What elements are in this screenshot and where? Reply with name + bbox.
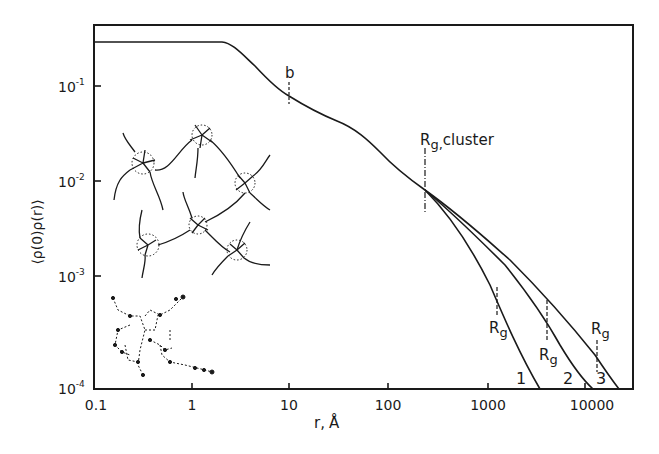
plot-frame [94,25,633,389]
x-tick-labels: 0.1 1 10 100 1000 10000 [85,397,614,413]
x-tick-label: 10000 [570,397,615,413]
rg-label-2: Rg [539,346,558,367]
y-tick-label: 10-1 [58,77,85,95]
x-tick-label: 1000 [470,397,506,413]
curves [94,42,619,389]
curve-label-2: 2 [563,369,573,388]
correlation-function-chart: 10-1 10-2 10-3 10-4 ⟨ρ(0)ρ(r)⟩ 0.1 1 10 … [0,0,659,454]
curve-label-3: 3 [596,369,606,388]
y-axis [94,86,101,276]
y-tick-label: 10-3 [58,267,85,285]
x-tick-label: 1 [188,397,197,413]
x-axis-label: r,Å [314,413,340,432]
x-tick-label: 0.1 [85,397,107,413]
rg-label-1: Rg [489,319,508,340]
rg-label-3: Rg [591,320,610,341]
curve-3 [425,190,619,389]
b-label: b [285,64,295,82]
y-tick-label: 10-2 [58,172,85,190]
bead-chain-inset [111,295,214,377]
y-tick-label: 10-4 [58,379,85,397]
curve-shared-segment [94,42,425,190]
x-tick-label: 100 [375,397,402,413]
y-tick-labels: 10-1 10-2 10-3 10-4 [58,77,85,397]
y-axis-label: ⟨ρ(0)ρ(r)⟩ [29,199,45,264]
curve-1 [425,190,540,389]
rg-cluster-label: Rg,cluster [420,131,495,152]
curve-label-1: 1 [516,369,526,388]
x-tick-label: 10 [280,397,298,413]
cluster-network-inset [114,125,270,278]
